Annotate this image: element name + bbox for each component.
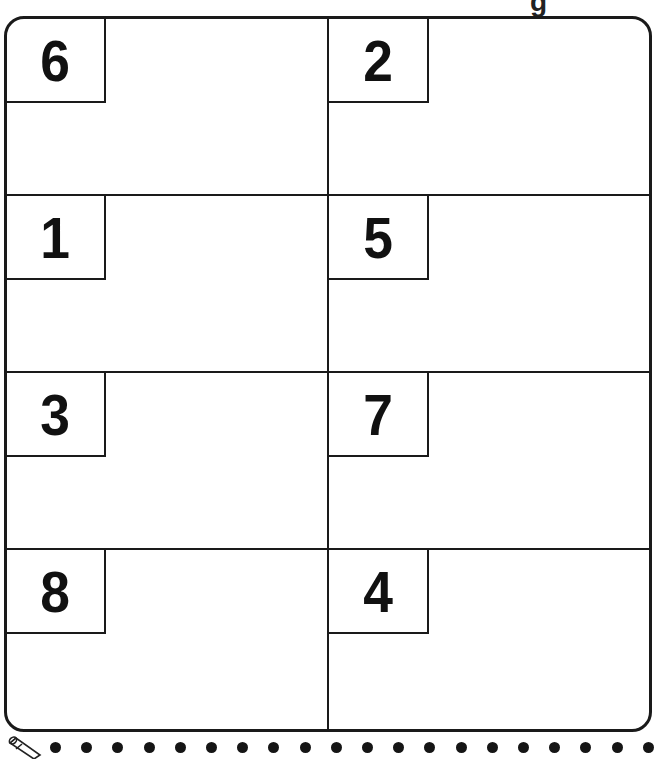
panel-number-box: 6 (6, 19, 106, 103)
dot (112, 742, 123, 753)
dot (518, 742, 529, 753)
dot (362, 742, 373, 753)
panel-number-box: 2 (329, 19, 429, 103)
dot (144, 742, 155, 753)
dot (612, 742, 623, 753)
dot (549, 742, 560, 753)
panel-number: 5 (363, 204, 393, 271)
dot (237, 742, 248, 753)
dot (424, 742, 435, 753)
dot (300, 742, 311, 753)
panel-number: 1 (40, 204, 70, 271)
partial-heading-text: g (530, 0, 650, 6)
dot (206, 742, 217, 753)
dot (487, 742, 498, 753)
dotted-writing-line (50, 742, 654, 759)
dot (393, 742, 404, 753)
panel-number-box: 5 (329, 196, 429, 280)
panel-number-box: 8 (6, 550, 106, 634)
pencil-icon (6, 735, 46, 759)
dot (456, 742, 467, 753)
panel-number: 6 (40, 27, 70, 94)
dot (643, 742, 654, 753)
dot (331, 742, 342, 753)
panel-number-box: 4 (329, 550, 429, 634)
dot (580, 742, 591, 753)
panel-number-box: 7 (329, 373, 429, 457)
panel-number-box: 3 (6, 373, 106, 457)
panel-number: 3 (40, 381, 70, 448)
dot (81, 742, 92, 753)
panel-number-box: 1 (6, 196, 106, 280)
panel-number: 2 (363, 27, 393, 94)
dot (175, 742, 186, 753)
panel-number: 8 (40, 558, 70, 625)
panel-number: 7 (363, 381, 393, 448)
dot (268, 742, 279, 753)
panel-number: 4 (363, 558, 393, 625)
dot (50, 742, 61, 753)
